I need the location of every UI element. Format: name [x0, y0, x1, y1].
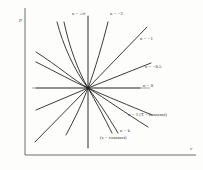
- plot-canvas: [0, 0, 203, 170]
- label-n-k: n = k: [120, 128, 130, 133]
- label-s-constant: (s = constant): [100, 135, 127, 140]
- curve-n-minus2-labeled: [66, 22, 108, 135]
- polytropic-process-figure: P v n = ±∞ n = −2 n = −1 n = −0.5 n = 0 …: [0, 0, 203, 170]
- curve-n-minus05: [36, 63, 151, 110]
- x-axis-label: v: [190, 146, 192, 151]
- curve-n-minus1: [35, 27, 147, 142]
- y-axis-label: P: [19, 18, 22, 23]
- label-n-minus-05: n = −0.5: [145, 64, 161, 69]
- label-n-minus-2: n = −2: [110, 11, 123, 16]
- polytropic-curves: [35, 16, 152, 148]
- reference-lines: [32, 16, 150, 148]
- label-n-infinity: n = ±∞: [72, 11, 86, 16]
- label-n-1-isotherm: n = 1 (T = constant): [128, 112, 167, 117]
- label-n-0: n = 0: [143, 83, 153, 88]
- axis-frame: [25, 8, 196, 155]
- label-n-minus-1: n = −1: [140, 36, 153, 41]
